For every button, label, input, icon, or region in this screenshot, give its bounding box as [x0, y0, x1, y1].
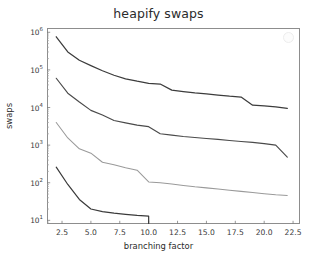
y-axis-tick-1: 101 [30, 216, 43, 225]
y-axis-tick-3: 103 [30, 141, 43, 150]
y-axis-tick-2: 102 [30, 178, 43, 187]
page-title: heapify swaps [0, 6, 317, 21]
x-axis-tick-5.0: 5.0 [85, 228, 97, 237]
x-axis-tick-2.5: 2.5 [56, 228, 68, 237]
x-axis-tick-7.5: 7.5 [114, 228, 126, 237]
plot-area [47, 28, 300, 224]
x-axis-tick-10.0: 10.0 [140, 228, 157, 237]
x-axis-label: branching factor [0, 241, 317, 251]
x-axis-tick-22.5: 22.5 [285, 228, 302, 237]
legend-circle-marker [283, 32, 294, 43]
line-series-4 [56, 167, 148, 223]
data-lines [47, 28, 300, 224]
chart-figure: heapify swaps swaps 101102103104105106 2… [0, 0, 317, 265]
y-axis-tick-4: 104 [30, 103, 43, 112]
x-axis-tick-17.5: 17.5 [227, 228, 244, 237]
line-series-3 [56, 122, 287, 195]
x-axis-tick-20.0: 20.0 [256, 228, 273, 237]
y-axis-tick-labels: 101102103104105106 [0, 28, 43, 224]
x-axis-tick-labels: 2.55.07.510.012.515.017.520.022.5 [47, 228, 300, 240]
line-series-1 [56, 37, 287, 109]
y-axis-tick-6: 106 [30, 28, 43, 37]
y-axis-tick-5: 105 [30, 65, 43, 74]
x-axis-tick-12.5: 12.5 [169, 228, 186, 237]
x-axis-tick-15.0: 15.0 [198, 228, 215, 237]
